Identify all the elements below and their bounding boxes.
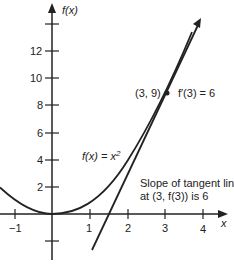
y-axis-arrow-icon (48, 3, 56, 13)
y-tick-label: 8 (37, 99, 43, 111)
y-tick-label: 12 (30, 45, 42, 57)
y-tick-label: 6 (37, 127, 43, 139)
y-tick-label: 10 (30, 72, 42, 84)
x-tick-label: 4 (200, 223, 206, 235)
y-axis-label: f(x) (62, 4, 78, 16)
y-tick-label: 2 (37, 181, 43, 193)
note-line-2: at (3, f(3)) is 6 (140, 190, 208, 202)
x-tick-label: 3 (162, 222, 168, 234)
curve-label: f(x) = x2 (82, 149, 121, 162)
point-label: (3, 9) (135, 87, 161, 99)
note-line-1: Slope of tangent line (140, 177, 234, 189)
chart: −1 1 2 3 4 x 2 4 6 8 10 12 f(x) (3, 9) f… (0, 0, 234, 264)
x-tick-label: −1 (9, 222, 22, 234)
x-axis-label: x (220, 217, 227, 229)
tangent-point (165, 91, 170, 96)
y-tick-label: 4 (37, 154, 43, 166)
x-tick-label: 1 (86, 222, 92, 234)
x-tick-label: 2 (125, 222, 131, 234)
tangent-line (92, 23, 199, 250)
derivative-label: f′(3) = 6 (178, 87, 215, 99)
